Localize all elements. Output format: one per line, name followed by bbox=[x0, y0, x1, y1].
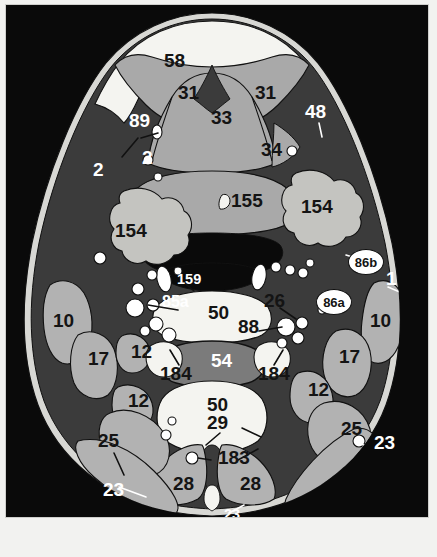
label-23-right: 23 bbox=[374, 433, 395, 452]
label-88: 88 bbox=[238, 317, 259, 336]
label-23-midline: 23 bbox=[224, 507, 240, 518]
image-plate: 5831313334488922155154154115985a26508810… bbox=[5, 4, 429, 518]
callout-86b: 86b bbox=[348, 249, 384, 275]
label-17-left: 17 bbox=[88, 349, 109, 368]
label-183: 183 bbox=[218, 448, 250, 467]
label-155: 155 bbox=[231, 191, 263, 210]
label-17-right: 17 bbox=[339, 347, 360, 366]
interspinous-fat bbox=[204, 485, 220, 511]
label-54: 54 bbox=[211, 351, 232, 370]
label-1: 1 bbox=[386, 269, 397, 288]
label-184-left: 184 bbox=[160, 364, 192, 383]
label-33: 33 bbox=[211, 108, 232, 127]
label-23-left: 23 bbox=[103, 480, 124, 499]
label-25-left: 25 bbox=[98, 431, 119, 450]
label-12-lower-left: 12 bbox=[128, 391, 149, 410]
label-50-upper: 50 bbox=[208, 303, 229, 322]
label-31-left: 31 bbox=[178, 83, 199, 102]
label-25-right: 25 bbox=[341, 419, 362, 438]
label-2-outer: 2 bbox=[93, 160, 104, 179]
label-29: 29 bbox=[207, 413, 228, 432]
label-28-left: 28 bbox=[173, 474, 194, 493]
label-12-upper-left: 12 bbox=[131, 342, 152, 361]
label-26: 26 bbox=[264, 291, 285, 310]
label-10-left: 10 bbox=[53, 311, 74, 330]
label-48: 48 bbox=[305, 102, 326, 121]
label-154-right: 154 bbox=[301, 197, 333, 216]
label-154-left: 154 bbox=[115, 221, 147, 240]
label-2-inner: 2 bbox=[142, 148, 153, 167]
label-34: 34 bbox=[261, 140, 282, 159]
label-28-right: 28 bbox=[240, 474, 261, 493]
label-10-right: 10 bbox=[370, 311, 391, 330]
label-31-right: 31 bbox=[255, 83, 276, 102]
label-85a: 85a bbox=[162, 294, 189, 310]
label-159: 159 bbox=[177, 272, 201, 287]
label-12-right: 12 bbox=[308, 380, 329, 399]
callout-86a: 86a bbox=[316, 289, 352, 315]
figure-container: 5831313334488922155154154115985a26508810… bbox=[0, 0, 437, 557]
label-184-right: 184 bbox=[258, 364, 290, 383]
label-58: 58 bbox=[164, 51, 185, 70]
label-89: 89 bbox=[129, 111, 150, 130]
